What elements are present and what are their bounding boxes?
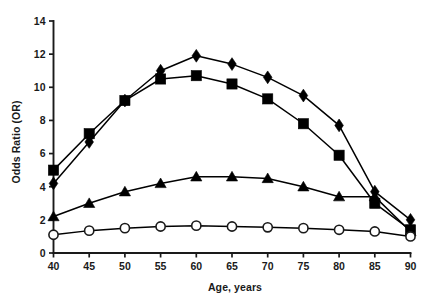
y-tick-label: 4	[40, 181, 46, 193]
series-filled-square-series	[54, 76, 411, 230]
open-circle-marker	[299, 224, 308, 233]
x-axis-title: Age, years	[0, 281, 436, 293]
filled-square-marker	[120, 95, 130, 105]
y-axis-ticks: 02468101214	[34, 15, 54, 259]
filled-square-marker	[227, 79, 237, 89]
open-circle-marker	[335, 225, 344, 234]
y-tick-label: 2	[40, 214, 46, 226]
filled-diamond-marker	[299, 89, 308, 102]
filled-square-marker	[48, 165, 58, 175]
x-tick-label: 60	[190, 260, 202, 272]
filled-square-marker	[334, 150, 344, 160]
x-tick-label: 65	[226, 260, 238, 272]
x-axis-ticks: 4045505560657075808590	[48, 253, 417, 272]
x-tick-label: 45	[83, 260, 95, 272]
filled-square-marker	[156, 74, 166, 84]
filled-square-marker	[191, 71, 201, 81]
open-circle-marker	[370, 227, 379, 236]
filled-square-marker	[263, 94, 273, 104]
filled-diamond-marker	[192, 49, 201, 62]
filled-square-marker	[298, 119, 308, 129]
chart-figure: 024681012144045505560657075808590 Odds R…	[0, 0, 436, 304]
x-tick-label: 70	[262, 260, 274, 272]
filled-diamond-marker	[406, 213, 415, 226]
x-tick-label: 50	[119, 260, 131, 272]
series-line	[54, 76, 411, 230]
y-tick-label: 10	[34, 81, 46, 93]
filled-triangle-marker	[48, 211, 59, 221]
open-circle-marker	[263, 223, 272, 232]
open-circle-marker	[49, 230, 58, 239]
filled-diamond-marker	[228, 58, 237, 71]
x-tick-label: 75	[298, 260, 310, 272]
filled-diamond-marker	[263, 71, 272, 84]
y-tick-label: 0	[40, 247, 46, 259]
filled-square-marker	[84, 129, 94, 139]
x-tick-label: 80	[333, 260, 345, 272]
plot-area: 024681012144045505560657075808590	[0, 0, 436, 304]
markers-filled-diamond-series	[49, 49, 415, 226]
y-tick-label: 14	[34, 15, 46, 27]
y-tick-label: 12	[34, 48, 46, 60]
x-tick-label: 40	[48, 260, 60, 272]
x-tick-label: 55	[155, 260, 167, 272]
y-tick-label: 6	[40, 147, 46, 159]
open-circle-marker	[192, 221, 201, 230]
open-circle-marker	[85, 226, 94, 235]
open-circle-marker	[156, 222, 165, 231]
axis-spines	[54, 21, 411, 253]
open-circle-marker	[120, 224, 129, 233]
markers-filled-square-series	[48, 71, 415, 235]
y-axis-title: Odds Ratio (OR)	[10, 82, 22, 202]
y-tick-label: 8	[40, 114, 46, 126]
open-circle-marker	[227, 222, 236, 231]
x-tick-label: 90	[405, 260, 417, 272]
x-tick-label: 85	[369, 260, 381, 272]
open-circle-marker	[406, 232, 415, 241]
